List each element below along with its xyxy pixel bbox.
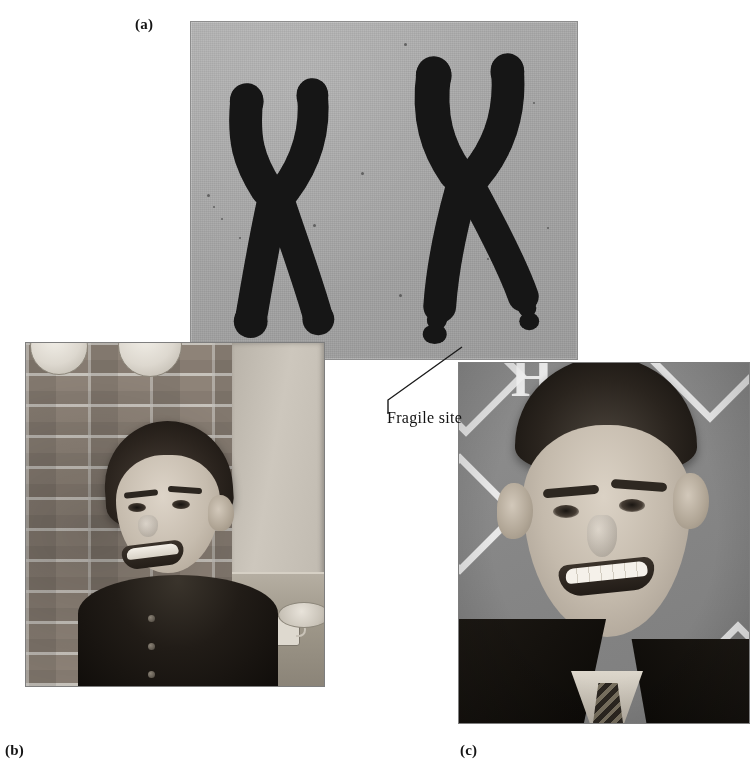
figure-root: (a) [0,0,756,773]
boy-eye-left [128,503,146,512]
shirt-button [148,671,155,678]
boy-teeth [126,543,179,560]
panel-label-c: (c) [460,742,477,759]
panel-c-young-man-photo: H PY [458,362,750,724]
shirt-button [148,643,155,650]
chromosomes-drawing [191,22,577,359]
panel-label-b: (b) [5,742,24,759]
panel-label-a: (a) [135,16,153,33]
shirt-button [148,615,155,622]
man-nose [587,515,617,557]
man-ear-right [673,473,709,529]
boy-shirt [78,575,278,687]
boy-eye-right [172,500,190,509]
man-ear-left [497,483,533,539]
panel-a-karyotype-photo [190,21,578,360]
dish [278,602,325,628]
fragile-site-knob-right [519,312,539,330]
man-eye-right [619,499,645,512]
fragile-site-annotation-label: Fragile site [387,409,462,427]
panel-b-boy-photo [25,342,325,687]
normal-x-chromosome [230,80,334,338]
man-teeth [565,561,648,584]
fragile-x-chromosome [416,55,539,344]
boy-nose [138,515,158,537]
fragile-site-knob-left [423,324,447,344]
man-eye-left [553,505,579,518]
boy-ear [208,495,234,531]
man-suit-jacket-right [632,639,750,723]
